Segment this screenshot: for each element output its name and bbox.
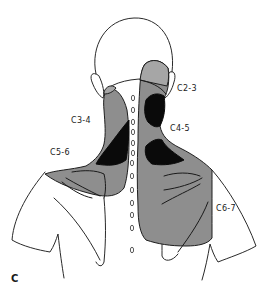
cervical-referral-diagram: C2-3 C3-4 C4-5 C5-6 C6-7 C (0, 0, 275, 295)
label-c2-3: C2-3 (177, 84, 197, 93)
spinous-process-marker (130, 225, 133, 231)
zone-c4-5-black (145, 94, 165, 127)
label-c3-4: C3-4 (71, 116, 91, 125)
label-c6-7: C6-7 (216, 204, 236, 213)
spinous-process-marker (130, 247, 133, 253)
spinous-process-marker (130, 200, 133, 206)
spinous-process-marker (131, 140, 134, 146)
left-shoulder-outline (12, 172, 64, 278)
spinous-process-marker (131, 95, 134, 101)
spinous-process-marker (131, 119, 134, 125)
spinous-process-marker (131, 150, 134, 156)
spinous-process-marker (130, 187, 133, 193)
label-c4-5: C4-5 (170, 124, 190, 133)
panel-label: C (11, 273, 18, 284)
label-c5-6: C5-6 (50, 148, 70, 157)
spinous-process-marker (130, 173, 133, 179)
spinous-process-marker (130, 160, 133, 166)
left-ear (91, 74, 104, 98)
spinous-process-marker (131, 129, 134, 135)
spinous-process-marker (130, 212, 133, 218)
left-armpit-line (54, 198, 100, 260)
spinous-process-marker (131, 107, 134, 113)
spinous-process-markers (130, 95, 134, 253)
